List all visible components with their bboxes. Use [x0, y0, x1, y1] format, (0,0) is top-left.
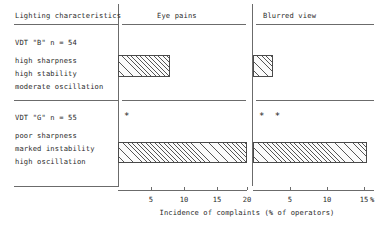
axis-tick-label-eye-10: 10	[180, 195, 189, 204]
row-label-b-1: high sharpness	[15, 56, 77, 65]
rule-mid-eye	[122, 100, 246, 101]
axis-tick-label-blur-10: 10	[323, 195, 332, 204]
row-label-g-2: marked instability	[15, 144, 95, 153]
axis-line-blurred-view	[253, 190, 374, 191]
axis-tick-eye-5	[151, 187, 152, 190]
axis-tick-label-eye-20: 20	[243, 195, 252, 204]
rule-mid-left	[14, 100, 119, 101]
axis-unit-percent: %	[370, 195, 374, 204]
axis-tick-blur-5	[290, 187, 291, 190]
rule-top-left	[14, 24, 119, 25]
bar-eye-pains-vdt-b	[118, 55, 170, 77]
bar-blurred-view-vdt-g	[253, 142, 367, 163]
rule-top-blur	[256, 24, 374, 25]
group-label-vdt-g: VDT "G" n = 55	[15, 113, 77, 122]
axis-tick-blur-10	[327, 187, 328, 190]
axis-tick-label-eye-15: 15	[213, 195, 222, 204]
row-label-g-1: poor sharpness	[15, 131, 77, 140]
row-label-b-2: high stability	[15, 69, 77, 78]
header-lighting-characteristics: Lighting characteristics	[15, 11, 121, 20]
axis-tick-eye-20	[247, 187, 248, 190]
axis-tick-label-eye-5: 5	[149, 195, 153, 204]
header-eye-pains: Eye pains	[157, 11, 197, 20]
significance-stars-eye-pains-vdt-g: *	[124, 112, 132, 121]
axis-tick-label-blur-15: 15	[360, 195, 369, 204]
axis-tick-label-blur-5: 5	[288, 195, 292, 204]
group-label-vdt-b: VDT "B" n = 54	[15, 38, 77, 47]
rule-mid-blur	[256, 100, 374, 101]
figure-root: Lighting characteristics Eye pains Blurr…	[0, 0, 382, 227]
rule-top-eye	[122, 24, 246, 25]
rule-bottom-left	[14, 186, 119, 187]
axis-tick-eye-15	[217, 187, 218, 190]
header-blurred-view: Blurred view	[263, 11, 316, 20]
bar-eye-pains-vdt-g	[118, 142, 247, 163]
axis-tick-eye-10	[184, 187, 185, 190]
axis-tick-blur-15	[364, 187, 365, 190]
row-label-b-3: moderate oscillation	[15, 82, 103, 91]
row-label-g-3: high oscillation	[15, 157, 86, 166]
bar-blurred-view-vdt-b	[253, 55, 273, 77]
axis-caption: Incidence of complaints (% of operators)	[160, 208, 335, 217]
axis-line-eye-pains	[118, 190, 247, 191]
significance-stars-blurred-view-vdt-g: * *	[259, 112, 283, 121]
